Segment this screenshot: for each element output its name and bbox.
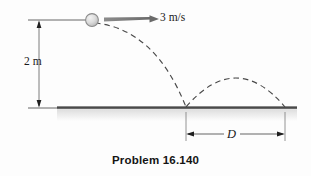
height-dimension-arrow-top xyxy=(37,21,42,29)
ground-shadow xyxy=(57,110,297,121)
figure-caption: Problem 16.140 xyxy=(0,154,311,166)
distance-dimension-arrow-right xyxy=(277,132,285,137)
height-dimension-arrow-bottom xyxy=(37,100,42,108)
ground-line xyxy=(57,106,297,109)
physics-figure: 2 m 3 m/s D Problem 16.140 xyxy=(0,0,311,176)
height-label: 2 m xyxy=(24,56,42,68)
fall-trajectory xyxy=(95,23,186,107)
distance-dimension-arrow-left xyxy=(186,132,194,137)
distance-label: D xyxy=(227,128,236,141)
bounce-trajectory xyxy=(186,78,285,107)
velocity-arrow xyxy=(104,17,151,22)
figure-canvas xyxy=(0,0,311,176)
ball xyxy=(86,14,99,27)
velocity-arrowhead-icon xyxy=(150,15,160,22)
speed-label: 3 m/s xyxy=(160,12,185,24)
